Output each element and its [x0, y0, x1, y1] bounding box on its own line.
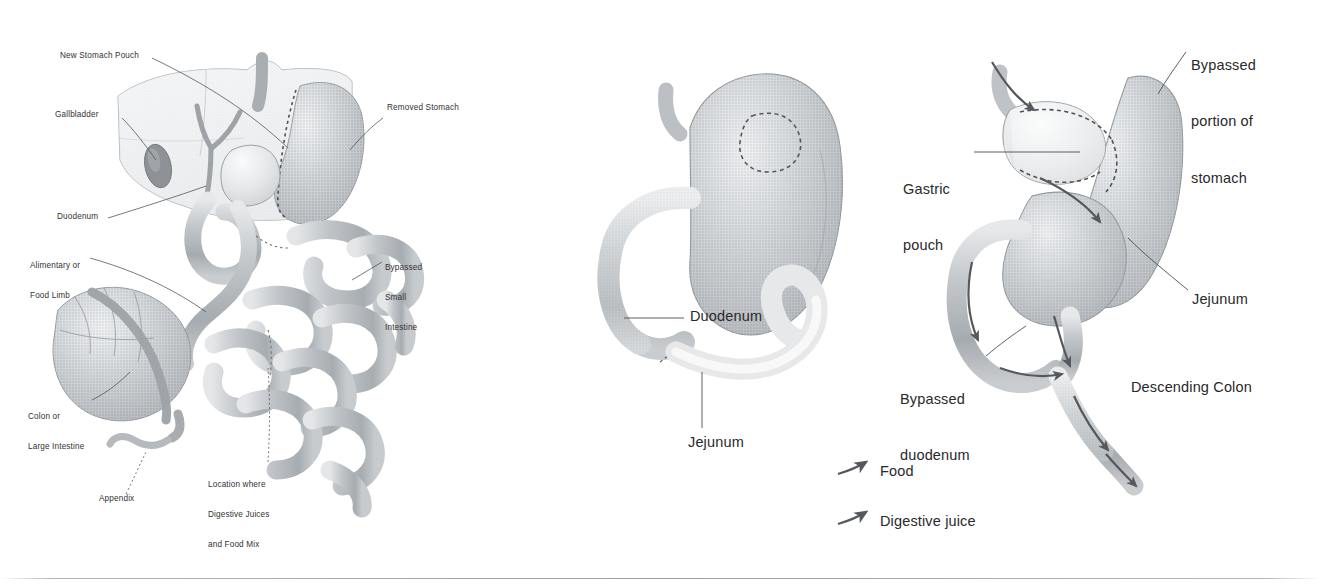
legend-arrows: [0, 0, 1320, 586]
illustration-canvas: New Stomach Pouch Gallbladder Duodenum A…: [0, 0, 1320, 586]
digestive-juice-arrow-icon: [838, 512, 866, 524]
bottom-divider: [0, 578, 1320, 579]
legend-label-food: Food: [880, 463, 914, 481]
legend-label-digestive-juice: Digestive juice: [880, 513, 976, 531]
food-arrow-icon: [838, 462, 866, 474]
